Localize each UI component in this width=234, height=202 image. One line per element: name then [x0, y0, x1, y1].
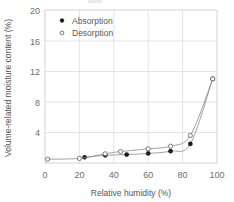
y-tick-16: 16 — [30, 37, 40, 47]
datapoint-absorption — [146, 151, 150, 155]
legend-marker-absorption — [60, 19, 64, 23]
x-tick-100: 100 — [209, 170, 224, 180]
y-tick-12: 12 — [30, 67, 40, 77]
x-tick-0: 0 — [42, 170, 47, 180]
y-axis-title: Volume-related moisture content (%) — [3, 19, 13, 157]
series-desorption — [45, 77, 214, 162]
series-layer — [45, 77, 214, 162]
legend-label-absorption: Absorption — [72, 16, 113, 26]
moisture-sorption-isotherm-chart: 20 16 12 8 4 0 20 40 60 80 100 Relative … — [0, 0, 234, 202]
datapoint-desorption — [168, 144, 172, 148]
datapoint-desorption — [77, 156, 81, 160]
x-tick-60: 60 — [143, 170, 153, 180]
datapoint-absorption — [168, 149, 172, 153]
y-axis-tick-labels: 20 16 12 8 4 — [30, 6, 40, 138]
chart-legend: Absorption Desorption — [60, 16, 113, 39]
x-tick-20: 20 — [74, 170, 84, 180]
legend-marker-desorption — [60, 31, 64, 35]
x-axis-tick-labels: 0 20 40 60 80 100 — [42, 170, 224, 180]
datapoint-desorption — [188, 133, 192, 137]
cropped-top-artifact — [88, 0, 102, 3]
datapoint-absorption — [125, 152, 129, 156]
y-tick-8: 8 — [35, 98, 40, 108]
datapoint-desorption — [211, 77, 215, 81]
chart-container: 20 16 12 8 4 0 20 40 60 80 100 Relative … — [0, 0, 234, 202]
x-axis-title: Relative humidity (%) — [91, 188, 171, 198]
datapoint-desorption — [45, 157, 49, 161]
datapoint-desorption — [146, 147, 150, 151]
plot-frame — [45, 10, 217, 163]
curve-absorption — [85, 79, 213, 157]
legend-label-desorption: Desorption — [72, 28, 113, 38]
datapoint-absorption — [188, 142, 192, 146]
datapoint-desorption — [119, 149, 123, 153]
datapoint-desorption — [103, 152, 107, 156]
y-tick-20: 20 — [30, 6, 40, 16]
horizontal-gridlines — [45, 41, 217, 133]
x-tick-80: 80 — [178, 170, 188, 180]
x-tick-40: 40 — [109, 170, 119, 180]
y-tick-4: 4 — [35, 128, 40, 138]
